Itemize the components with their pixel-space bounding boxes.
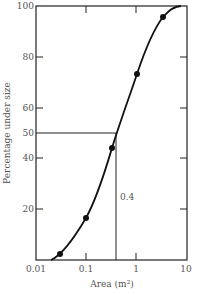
svg-text:60: 60 [23,103,35,113]
data-point [160,14,166,20]
svg-text:0.01: 0.01 [26,264,46,274]
y-axis-title: Percentage under size [2,82,12,184]
data-points [57,14,166,257]
x-axis-title: Area (m²) [89,279,134,289]
data-point [57,251,63,257]
data-point [134,71,140,77]
svg-text:1: 1 [133,264,139,274]
chart: 20 40 50 60 80 100 0.01 0.1 1 10 Area (m… [0,0,199,295]
data-point [109,145,115,151]
svg-text:10: 10 [180,264,192,274]
svg-text:100: 100 [17,1,34,11]
svg-text:40: 40 [23,153,35,163]
reference-label-0.4: 0.4 [120,192,135,202]
svg-text:0.1: 0.1 [79,264,93,274]
x-tick-labels: 0.01 0.1 1 10 [26,264,192,274]
data-point [83,215,89,221]
svg-text:80: 80 [23,52,35,62]
svg-text:20: 20 [23,204,35,214]
svg-text:50: 50 [23,128,35,138]
y-tick-labels: 20 40 50 60 80 100 [17,1,34,214]
